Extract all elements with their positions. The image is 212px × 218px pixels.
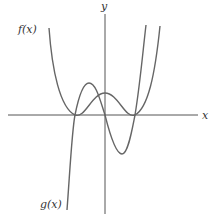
function-graph: f(x) g(x) y x bbox=[0, 0, 212, 218]
curve-g bbox=[67, 25, 146, 210]
f-label: f(x) bbox=[17, 23, 37, 36]
y-axis-label: y bbox=[100, 0, 108, 13]
g-label: g(x) bbox=[40, 198, 62, 211]
x-axis-label: x bbox=[202, 109, 209, 122]
